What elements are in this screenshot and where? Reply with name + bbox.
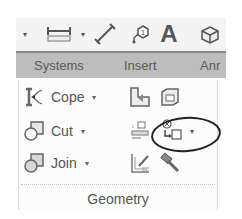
cope-icon [23, 86, 45, 108]
ribbon-tab-strip: Systems Insert Anr [16, 51, 226, 78]
wall-joins-button[interactable] [127, 84, 153, 110]
tab-insert[interactable]: Insert [124, 58, 157, 73]
wall-joins-icon [129, 86, 151, 108]
dropdown-arrow-icon: ▾ [81, 30, 85, 39]
chevron-down-icon[interactable]: ▾ [92, 93, 96, 102]
panel-separator [21, 184, 215, 185]
measure-button[interactable] [92, 22, 118, 46]
join-roof-button[interactable]: ↓ [127, 118, 153, 144]
demolish-button[interactable] [157, 150, 183, 176]
cut-label: Cut [51, 123, 73, 139]
aligned-dimension-button[interactable] [44, 22, 74, 46]
dropdown-arrow-icon: ▾ [23, 30, 27, 39]
split-face-button[interactable] [157, 84, 183, 110]
measure-icon [93, 22, 117, 46]
cope-label: Cope [51, 89, 84, 105]
cut-button[interactable]: Cut ▾ [23, 118, 85, 144]
join-icon [23, 152, 45, 174]
paint-icon [129, 152, 151, 174]
join-button[interactable]: Join ▾ [23, 150, 89, 176]
tab-annotate[interactable]: Anr [200, 58, 220, 73]
text-button[interactable]: A [158, 22, 180, 46]
join-label: Join [51, 155, 77, 171]
quick-access-toolbar: ▾ ▾ 1 A [16, 18, 226, 51]
chevron-down-icon[interactable]: ▾ [85, 159, 89, 168]
3d-view-icon [198, 23, 220, 45]
tag-button[interactable]: 1 [128, 22, 152, 46]
paint-button[interactable] [127, 150, 153, 176]
svg-text:↓: ↓ [131, 122, 135, 129]
svg-text:1: 1 [141, 29, 145, 36]
cut-icon [23, 120, 45, 142]
aligned-dimension-icon [45, 25, 73, 43]
dropdown-arrow-button[interactable]: ▾ [20, 22, 30, 46]
join-roof-icon: ↓ [129, 120, 151, 142]
dropdown-arrow-button[interactable]: ▾ [78, 22, 88, 46]
panel-title: Geometry [19, 191, 217, 207]
split-face-icon [159, 86, 181, 108]
tab-systems[interactable]: Systems [34, 58, 84, 73]
chevron-down-icon[interactable]: ▾ [81, 127, 85, 136]
text-icon: A [160, 20, 177, 48]
demolish-hammer-icon [159, 152, 181, 174]
3d-view-button[interactable] [196, 22, 222, 46]
tag-icon: 1 [129, 23, 151, 45]
cope-button[interactable]: Cope ▾ [23, 84, 96, 110]
